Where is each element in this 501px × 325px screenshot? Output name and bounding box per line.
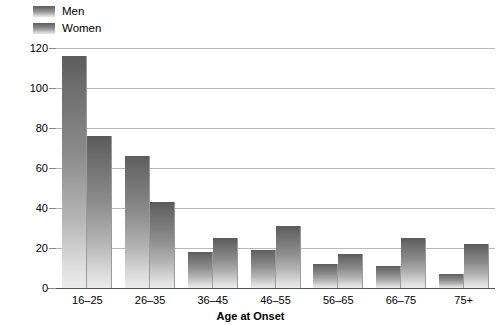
y-tick-mark (49, 208, 56, 209)
y-tick-mark (49, 288, 56, 289)
bar-group (125, 48, 175, 288)
x-tick-label: 66–75 (366, 294, 436, 306)
bar-men-36-45 (188, 252, 213, 288)
y-tick-label: 40 (8, 202, 48, 214)
legend-item-men: Men (33, 3, 101, 20)
y-tick-label: 0 (8, 282, 48, 294)
bar-men-66-75 (376, 266, 401, 288)
y-tick-mark (49, 48, 56, 49)
bar-group (62, 48, 112, 288)
legend-swatch-icon (33, 6, 55, 17)
y-tick-mark (49, 88, 56, 89)
bar-group (251, 48, 301, 288)
y-tick-label: 120 (8, 42, 48, 54)
bar-women-36-45 (213, 238, 238, 288)
y-tick-mark (49, 128, 56, 129)
x-tick-label: 56–65 (303, 294, 373, 306)
plot-area (56, 48, 495, 288)
bar-women-66-75 (401, 238, 426, 288)
y-tick-label: 60 (8, 162, 48, 174)
chart-legend: MenWomen (33, 3, 101, 37)
bar-men-16-25 (62, 56, 87, 288)
y-tick-label: 80 (8, 122, 48, 134)
bar-women-46-55 (276, 226, 301, 288)
x-tick-label: 75+ (429, 294, 499, 306)
legend-label: Women (62, 23, 101, 34)
bar-group (188, 48, 238, 288)
bar-women-56-65 (338, 254, 363, 288)
bar-men-75+ (439, 274, 464, 288)
bar-chart: MenWomen Number of Individuals 020406080… (0, 0, 501, 325)
bar-women-16-25 (87, 136, 112, 288)
bar-women-75+ (464, 244, 489, 288)
bar-group (376, 48, 426, 288)
x-tick-label: 26–35 (115, 294, 185, 306)
y-tick-mark (49, 168, 56, 169)
x-axis-label: Age at Onset (0, 310, 501, 322)
y-tick-label: 100 (8, 82, 48, 94)
x-axis-line (48, 288, 495, 289)
y-axis-ticks: 020406080100120 (0, 48, 48, 288)
x-tick-label: 16–25 (52, 294, 122, 306)
bar-men-56-65 (313, 264, 338, 288)
y-tick-mark (49, 248, 56, 249)
bar-men-26-35 (125, 156, 150, 288)
x-tick-label: 46–55 (241, 294, 311, 306)
legend-swatch-icon (33, 23, 55, 34)
bar-men-46-55 (251, 250, 276, 288)
bar-group (313, 48, 363, 288)
bar-women-26-35 (150, 202, 175, 288)
legend-item-women: Women (33, 20, 101, 37)
legend-label: Men (62, 6, 84, 17)
y-tick-label: 20 (8, 242, 48, 254)
x-tick-label: 36–45 (178, 294, 248, 306)
bar-group (439, 48, 489, 288)
